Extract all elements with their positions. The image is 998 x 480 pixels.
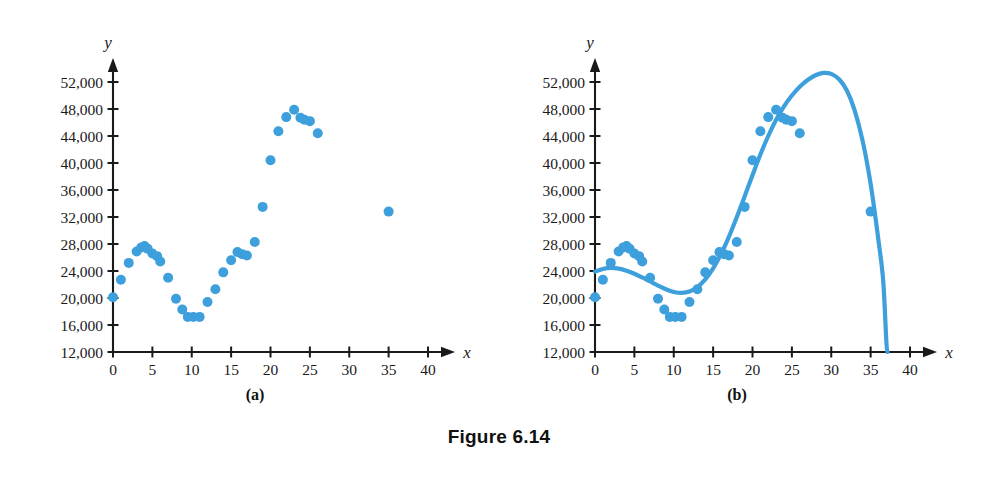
data-point <box>740 202 750 212</box>
data-point <box>590 292 600 302</box>
y-tick-label: 12,000 <box>542 344 585 361</box>
x-tick-label: 0 <box>591 361 599 378</box>
data-point <box>171 294 181 304</box>
data-point <box>384 207 394 217</box>
data-point <box>250 237 260 247</box>
data-point <box>313 128 323 138</box>
data-point <box>155 257 165 267</box>
y-tick-label: 16,000 <box>542 317 585 334</box>
data-point <box>787 116 797 126</box>
x-tick-label: 35 <box>863 361 879 378</box>
data-point <box>653 294 663 304</box>
y-tick-label: 28,000 <box>542 236 585 253</box>
data-point <box>266 155 276 165</box>
data-point <box>685 297 695 307</box>
data-point <box>606 258 616 268</box>
panel-a-svg: 12,00016,00020,00024,00028,00032,00036,0… <box>0 0 499 430</box>
y-tick-label: 12,000 <box>60 344 103 361</box>
data-point <box>748 155 758 165</box>
x-tick-label: 25 <box>302 361 318 378</box>
data-point <box>724 250 734 260</box>
y-tick-label: 32,000 <box>60 209 103 226</box>
y-tick-label: 40,000 <box>542 155 585 172</box>
y-tick-label: 52,000 <box>60 74 103 91</box>
data-point <box>708 255 718 265</box>
x-tick-label: 10 <box>184 361 200 378</box>
y-tick-label: 48,000 <box>60 101 103 118</box>
data-point <box>637 257 647 267</box>
y-tick-label: 20,000 <box>60 290 103 307</box>
y-axis-label: y <box>102 33 112 52</box>
y-tick-label: 40,000 <box>60 155 103 172</box>
y-tick-label: 36,000 <box>542 182 585 199</box>
panel-b-scatter-with-fit: 12,00016,00020,00024,00028,00032,00036,0… <box>482 0 981 430</box>
y-tick-label: 24,000 <box>60 263 103 280</box>
data-point <box>289 105 299 115</box>
data-point <box>195 312 205 322</box>
data-point <box>242 250 252 260</box>
figure-caption: Figure 6.14 <box>0 426 998 448</box>
tick-marks: 12,00016,00020,00024,00028,00032,00036,0… <box>542 74 918 378</box>
x-tick-label: 20 <box>263 361 279 378</box>
panel-b-svg: 12,00016,00020,00024,00028,00032,00036,0… <box>482 0 981 430</box>
x-tick-label: 10 <box>666 361 682 378</box>
data-point <box>116 275 126 285</box>
y-tick-label: 32,000 <box>542 209 585 226</box>
data-point <box>763 112 773 122</box>
y-tick-label: 20,000 <box>542 290 585 307</box>
x-tick-label: 15 <box>705 361 721 378</box>
y-axis-label: y <box>584 33 594 52</box>
axes <box>108 58 455 357</box>
y-tick-label: 44,000 <box>60 128 103 145</box>
x-tick-label: 5 <box>149 361 157 378</box>
data-point-group <box>590 105 876 322</box>
x-tick-label: 35 <box>381 361 397 378</box>
regression-curve <box>595 73 888 352</box>
data-point <box>163 273 173 283</box>
data-point <box>281 112 291 122</box>
x-tick-label: 20 <box>745 361 761 378</box>
tick-marks: 12,00016,00020,00024,00028,00032,00036,0… <box>60 74 436 378</box>
y-tick-label: 52,000 <box>542 74 585 91</box>
x-tick-label: 25 <box>784 361 800 378</box>
y-tick-label: 44,000 <box>542 128 585 145</box>
data-point <box>203 297 213 307</box>
data-point <box>218 267 228 277</box>
x-tick-label: 15 <box>223 361 239 378</box>
x-tick-label: 40 <box>902 361 918 378</box>
y-tick-label: 28,000 <box>60 236 103 253</box>
data-point <box>598 275 608 285</box>
data-point <box>210 284 220 294</box>
x-tick-label: 0 <box>109 361 117 378</box>
y-tick-label: 24,000 <box>542 263 585 280</box>
data-point <box>258 202 268 212</box>
data-point <box>700 267 710 277</box>
y-tick-label: 16,000 <box>60 317 103 334</box>
data-point-group <box>108 105 394 322</box>
data-point <box>677 312 687 322</box>
x-tick-label: 5 <box>631 361 639 378</box>
y-tick-label: 36,000 <box>60 182 103 199</box>
data-point <box>866 207 876 217</box>
x-tick-label: 30 <box>342 361 358 378</box>
data-point <box>226 255 236 265</box>
data-point <box>795 128 805 138</box>
y-tick-label: 48,000 <box>542 101 585 118</box>
x-tick-label: 40 <box>420 361 436 378</box>
data-point <box>692 284 702 294</box>
x-tick-label: 30 <box>824 361 840 378</box>
data-point <box>732 237 742 247</box>
x-axis-label: x <box>944 343 953 362</box>
data-point <box>305 116 315 126</box>
data-point <box>124 258 134 268</box>
panel-b-caption: (b) <box>707 386 767 404</box>
data-point <box>273 126 283 136</box>
x-axis-label: x <box>462 343 471 362</box>
panel-a-caption: (a) <box>225 386 285 404</box>
data-point <box>755 126 765 136</box>
data-point <box>645 273 655 283</box>
panel-a-scatter-plot: 12,00016,00020,00024,00028,00032,00036,0… <box>0 0 499 430</box>
data-point <box>108 292 118 302</box>
figure-6-14: 12,00016,00020,00024,00028,00032,00036,0… <box>0 0 998 480</box>
data-point <box>771 105 781 115</box>
